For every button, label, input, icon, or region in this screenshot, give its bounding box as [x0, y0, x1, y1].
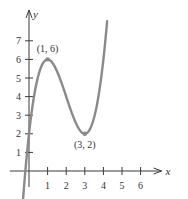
- y-axis-label: y: [32, 8, 38, 20]
- curve-layer: [22, 21, 107, 199]
- y-tick-label: 7: [16, 35, 21, 46]
- x-tick-label: 2: [64, 180, 69, 191]
- y-tick-label: 1: [16, 147, 21, 158]
- function-curve: [22, 21, 107, 199]
- y-tick-label: 5: [16, 73, 21, 84]
- x-tick-label: 3: [82, 180, 87, 191]
- x-tick-label: 6: [138, 180, 143, 191]
- x-axis-label: x: [165, 165, 171, 177]
- labels: xy1234561234567(1, 6)(3, 2): [16, 8, 171, 191]
- point-annotation: (3, 2): [74, 139, 96, 151]
- y-tick-label: 2: [16, 128, 21, 139]
- critical-point: [83, 132, 87, 136]
- x-tick-label: 1: [45, 180, 50, 191]
- critical-point: [45, 57, 49, 61]
- ticks: [25, 41, 141, 175]
- x-tick-label: 5: [120, 180, 125, 191]
- cubic-function-chart: xy1234561234567(1, 6)(3, 2): [0, 0, 188, 199]
- y-tick-label: 4: [16, 91, 21, 102]
- x-tick-label: 4: [101, 180, 106, 191]
- y-tick-label: 6: [16, 54, 21, 65]
- y-tick-label: 3: [16, 110, 21, 121]
- point-annotation: (1, 6): [37, 43, 59, 55]
